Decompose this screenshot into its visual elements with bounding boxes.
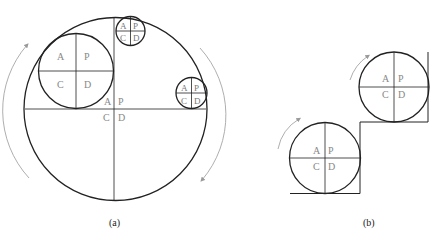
upper-wheel-label-c: C — [382, 89, 389, 100]
top-wheel-label-c: C — [120, 33, 126, 43]
left-rotation-arrow-icon — [3, 45, 29, 178]
panel-b: A P C D A P C D (b) — [278, 52, 429, 229]
lower-wheel-label-a: A — [313, 145, 321, 156]
lower-wheel: A P C D — [290, 123, 361, 194]
right-rotation-arrow-icon — [200, 48, 226, 180]
upper-wheel-label-a: A — [382, 73, 390, 84]
lower-wheel-label-c: C — [313, 161, 320, 172]
right-wheel-label-p: P — [194, 83, 199, 93]
staircase — [290, 52, 428, 194]
large-wheel-label-d: D — [84, 79, 91, 90]
large-wheel-label-c: C — [57, 79, 64, 90]
lower-wheel-label-p: P — [328, 145, 334, 156]
caption-b: (b) — [363, 217, 375, 229]
pdca-wheel-diagram: A P C D A P C D A P C D A — [0, 0, 441, 240]
large-wheel-label-a: A — [57, 51, 65, 62]
lower-rotation-arrow-icon — [278, 119, 299, 149]
center-label-a: A — [104, 96, 112, 107]
large-wheel-label-p: P — [84, 51, 90, 62]
right-wheel-label-d: D — [194, 96, 201, 106]
top-wheel-label-d: D — [133, 33, 140, 43]
caption-a: (a) — [109, 217, 120, 229]
large-wheel: A P C D — [39, 34, 114, 109]
upper-wheel-label-p: P — [398, 73, 404, 84]
right-wheel-label-c: C — [181, 96, 187, 106]
panel-a: A P C D A P C D A P C D A — [3, 17, 226, 230]
top-wheel: A P C D — [116, 17, 145, 46]
center-label-d: D — [118, 112, 125, 123]
upper-wheel-label-d: D — [398, 89, 405, 100]
right-wheel: A P C D — [176, 78, 207, 109]
center-label-c: C — [103, 112, 110, 123]
top-wheel-label-p: P — [133, 21, 138, 31]
center-label-p: P — [118, 96, 124, 107]
right-wheel-label-a: A — [181, 83, 188, 93]
top-wheel-label-a: A — [120, 21, 127, 31]
lower-wheel-label-d: D — [328, 161, 335, 172]
upper-wheel: A P C D — [359, 52, 429, 122]
